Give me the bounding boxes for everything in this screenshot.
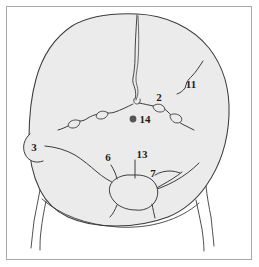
- label-11: 11: [186, 78, 196, 90]
- neck-line-right-inner: [196, 200, 204, 251]
- neck-line-right-outer: [206, 186, 214, 246]
- skull-diagram: 2 3 6 7 11 13 14: [0, 0, 259, 267]
- label-14: 14: [140, 113, 152, 125]
- marker-group: [130, 116, 137, 123]
- label-7: 7: [150, 167, 156, 179]
- label-3: 3: [31, 141, 37, 153]
- anatomical-figure-panel: 2 3 6 7 11 13 14: [0, 0, 259, 267]
- neck-line-left-inner: [40, 201, 46, 250]
- label-13: 13: [137, 148, 149, 160]
- label-6: 6: [105, 151, 111, 163]
- marker-14-dot: [130, 116, 137, 123]
- neck-line-left-outer: [31, 190, 40, 248]
- label-2: 2: [156, 91, 162, 103]
